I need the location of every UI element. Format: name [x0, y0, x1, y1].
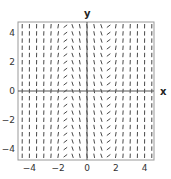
x-tick-label: 4: [142, 163, 148, 173]
x-tick-label: 2: [113, 163, 119, 173]
y-tick-label: −2: [2, 115, 15, 125]
y-tick-label: 2: [9, 57, 15, 67]
y-tick-labels: −4−2024: [2, 28, 16, 153]
y-tick-label: 4: [9, 28, 15, 38]
x-tick-label: −2: [52, 163, 65, 173]
x-axis-label: x: [160, 86, 167, 97]
x-tick-label: 0: [84, 163, 90, 173]
y-tick-label: 0: [9, 86, 15, 96]
x-tick-labels: −4−2024: [23, 163, 148, 173]
y-tick-label: −4: [2, 144, 16, 154]
y-axis-label: y: [84, 8, 91, 19]
x-tick-label: −4: [23, 163, 37, 173]
slope-field-chart: −4−2024 −4−2024 x y: [0, 0, 171, 179]
